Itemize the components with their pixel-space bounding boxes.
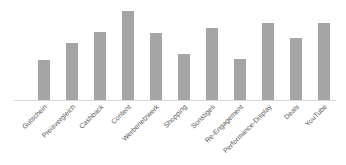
x-tick-label: Sonstiges bbox=[190, 103, 217, 130]
x-tick-label: YouTube bbox=[304, 103, 328, 127]
bar-gutschein bbox=[38, 60, 50, 100]
x-tick-label: Content bbox=[110, 103, 132, 125]
x-tick-label: Cashback bbox=[78, 103, 105, 130]
bar-youtube bbox=[318, 23, 330, 100]
x-tick-label: Deals bbox=[283, 103, 301, 121]
bar-content bbox=[122, 11, 134, 100]
bar-sonstiges bbox=[206, 28, 218, 100]
bar-preisvergleich bbox=[66, 43, 78, 100]
x-axis-line bbox=[14, 100, 336, 101]
bar-cashback bbox=[94, 32, 106, 100]
bar-re-engagement bbox=[234, 59, 246, 100]
bar-chart: GutscheinPreisvergleichCashbackContentWe… bbox=[0, 0, 346, 165]
bar-performance-display bbox=[262, 23, 274, 100]
x-tick-label: Shopping bbox=[162, 103, 188, 129]
x-tick-label: Performance-Display bbox=[222, 103, 273, 154]
bar-shopping bbox=[178, 54, 190, 100]
bar-werbenetzwerk bbox=[150, 33, 162, 100]
bar-deals bbox=[290, 38, 302, 100]
x-tick-label: Gutschein bbox=[21, 103, 48, 130]
